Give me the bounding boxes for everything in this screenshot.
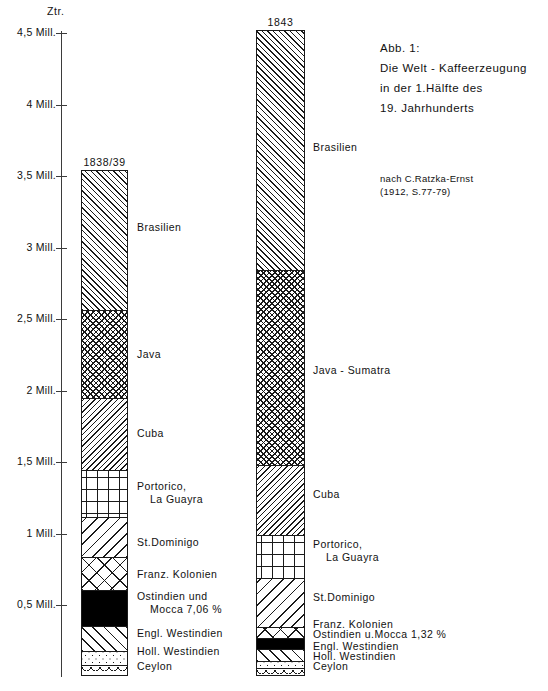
y-axis-unit-label: Ztr. (47, 5, 65, 17)
segment-label-line1: St.Dominigo (313, 591, 375, 603)
segment-label-line1: Engl. Westindien (137, 627, 223, 639)
axis-tick-mark (56, 319, 67, 320)
axis-tick-mark (56, 176, 67, 177)
stacked-bar-1838-39 (81, 0, 128, 691)
bar-segment-ceylon (256, 668, 305, 676)
segment-label-cuba: Cuba (313, 488, 340, 501)
segment-label-line1: Holl. Westindien (137, 645, 220, 657)
segment-label-line1: Ceylon (137, 660, 172, 672)
segment-label-line2: La Guayra (137, 493, 203, 506)
segment-label-line1: Portorico, (137, 480, 186, 492)
axis-tick-label: 1,5 Mill. (0, 455, 56, 467)
axis-tick-label: 1 Mill. (0, 527, 56, 539)
segment-label-ostindien: Ostindien undMocca 7,06 % (137, 590, 222, 616)
bar-segment-cuba (81, 398, 128, 470)
bar-segment-holl-westindien (81, 651, 128, 665)
segment-label-line1: Franz. Kolonien (137, 568, 217, 580)
axis-tick-mark (56, 248, 67, 249)
segment-label-holl-westindien: Holl. Westindien (137, 645, 220, 658)
segment-label-line2: Mocca 7,06 % (137, 603, 222, 616)
segment-label-franz-kolonien: Franz. Kolonien (137, 568, 217, 581)
bar-segment-franz-kolonien (256, 627, 305, 638)
bar-segment-brasilien (256, 30, 305, 270)
segment-label-line1: Ostindien und (137, 590, 208, 602)
segment-label-line1: Ceylon (313, 660, 348, 672)
segment-label-ceylon: Ceylon (313, 660, 348, 673)
axis-tick-mark (56, 462, 67, 463)
axis-tick-mark (56, 391, 67, 392)
axis-tick-label: 0,5 Mill. (0, 598, 56, 610)
segment-label-line1: Cuba (137, 427, 164, 439)
segment-label-line1: Brasilien (313, 141, 357, 153)
axis-tick-mark (56, 534, 67, 535)
axis-tick-label: 3 Mill. (0, 241, 56, 253)
axis-tick-mark (56, 105, 67, 106)
axis-tick-label: 2 Mill. (0, 384, 56, 396)
bar-segment-portorico (81, 470, 128, 517)
title-line-2: in der 1.Hälfte des (380, 78, 548, 98)
bar-segment-engl-westindien (81, 626, 128, 651)
segment-label-brasilien: Brasilien (313, 141, 357, 154)
segment-label-portorico: Portorico,La Guayra (313, 538, 379, 564)
bar-segment-portorico (256, 535, 305, 578)
bar-segment-cuba (256, 465, 305, 535)
title-line-1: Die Welt - Kaffeerzeugung (380, 58, 548, 78)
segment-label-cuba: Cuba (137, 427, 164, 440)
segment-label-line1: Ostindien u.Mocca 1,32 % (313, 628, 446, 640)
segment-label-line1: Java - Sumatra (313, 364, 391, 376)
segment-label-java-sumatra: Java - Sumatra (313, 364, 391, 377)
segment-label-st-dominigo: St.Dominigo (137, 536, 199, 549)
bar-segment-franz-kolonien (81, 557, 128, 590)
segment-label-line1: St.Dominigo (137, 536, 199, 548)
source-line-1: (1912, S.77-79) (380, 185, 548, 198)
title-line-3: 19. Jahrhunderts (380, 98, 548, 118)
segment-label-java: Java (137, 348, 161, 361)
bar-segment-brasilien (81, 170, 128, 310)
axis-tick-label: 2,5 Mill. (0, 312, 56, 324)
bar-segment-ostindien (81, 590, 128, 626)
segment-label-line1: Portorico, (313, 538, 362, 550)
segment-label-brasilien: Brasilien (137, 221, 181, 234)
axis-tick-mark (56, 33, 67, 34)
bar-segment-java (81, 310, 128, 398)
axis-tick-label: 3,5 Mill. (0, 169, 56, 181)
segment-label-line2: La Guayra (313, 551, 379, 564)
segment-label-line1: Java (137, 348, 161, 360)
bar-segment-java-sumatra (256, 270, 305, 465)
bar-segment-st-dominigo (256, 578, 305, 627)
bar-segment-ostindien (256, 638, 305, 649)
segment-label-portorico: Portorico,La Guayra (137, 480, 203, 506)
title-line-0: Abb. 1: (380, 38, 548, 58)
segment-label-line1: Brasilien (137, 221, 181, 233)
segment-label-engl-westindien: Engl. Westindien (137, 627, 223, 640)
axis-tick-label: 4,5 Mill. (0, 26, 56, 38)
y-axis-line (61, 31, 62, 677)
bar-segment-holl-westindien (256, 661, 305, 668)
figure-source: nach C.Ratzka-Ernst (1912, S.77-79) (380, 172, 548, 198)
figure-title: Abb. 1: Die Welt - Kaffeerzeugung in der… (380, 38, 548, 118)
segment-label-st-dominigo: St.Dominigo (313, 591, 375, 604)
stacked-bar-1843 (256, 0, 305, 691)
axis-tick-mark (56, 605, 67, 606)
coffee-production-figure: Ztr. 4,5 Mill.4 Mill.3,5 Mill.3 Mill.2,5… (0, 0, 548, 691)
axis-tick-label: 4 Mill. (0, 98, 56, 110)
bar-segment-st-dominigo (81, 517, 128, 557)
source-line-0: nach C.Ratzka-Ernst (380, 172, 548, 185)
segment-label-ceylon: Ceylon (137, 660, 172, 673)
bar-segment-ceylon (81, 665, 128, 676)
segment-label-line1: Cuba (313, 488, 340, 500)
bar-segment-engl-westindien (256, 649, 305, 661)
